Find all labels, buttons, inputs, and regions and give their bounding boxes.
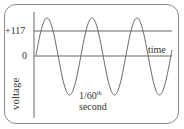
period-suffix: th [97, 90, 102, 96]
period-unit: second [79, 102, 107, 112]
period-value: 1/60 [79, 90, 97, 101]
period-annotation: 1/60th [79, 91, 101, 101]
tick-zero: 0 [22, 51, 27, 61]
x-axis-label: time [148, 45, 166, 55]
y-axis-label: voltage [9, 78, 21, 110]
tick-plus117: +117 [5, 26, 25, 36]
